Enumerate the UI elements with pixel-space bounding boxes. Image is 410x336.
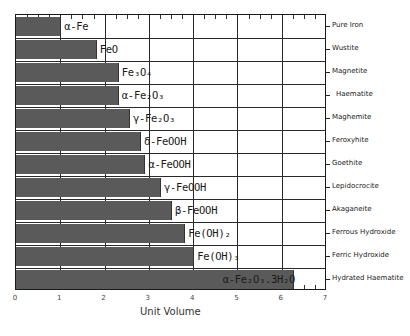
grid-line-horizontal: [16, 130, 325, 131]
bar: [16, 155, 145, 174]
mineral-label: Goethite: [332, 159, 362, 167]
right-tick: [326, 141, 330, 142]
minor-tick: [315, 285, 316, 289]
bar-label: Fe(OH)₃: [197, 250, 239, 262]
x-tick-label: 0: [13, 294, 17, 302]
x-tick-label: 1: [57, 294, 61, 302]
mineral-label: Feroxyhite: [332, 136, 368, 144]
minor-tick: [304, 285, 305, 289]
mineral-label: Akaganeite: [332, 205, 371, 213]
right-tick: [326, 49, 330, 50]
minor-tick: [249, 15, 250, 19]
minor-tick: [138, 15, 139, 19]
minor-tick: [293, 15, 294, 19]
bar-label: γ-FeOOH: [164, 181, 206, 193]
plot-area: α-FeFeOFe₃O₄α-Fe₂O₃γ-Fe₂O₃δ-FeOOHα-FeOOH…: [15, 14, 326, 290]
minor-tick: [160, 15, 161, 19]
bar: [16, 178, 161, 197]
x-axis-label: Unit Volume: [140, 306, 201, 317]
bar: [16, 86, 119, 105]
grid-line-horizontal: [16, 153, 325, 154]
minor-tick: [204, 15, 205, 19]
bar-label: γ-Fe₂O₃: [133, 112, 175, 124]
x-tick-label: 4: [190, 294, 194, 302]
minor-tick: [182, 15, 183, 19]
minor-tick: [215, 15, 216, 19]
x-tick-label: 2: [101, 294, 105, 302]
grid-line-horizontal: [16, 199, 325, 200]
grid-line-horizontal: [16, 176, 325, 177]
bar: [16, 63, 119, 82]
grid-line-horizontal: [16, 84, 325, 85]
grid-line-vertical: [282, 15, 283, 289]
bar-label: α-Fe₂O₃: [122, 89, 164, 101]
minor-tick: [226, 15, 227, 19]
minor-tick: [271, 15, 272, 19]
right-tick: [326, 187, 330, 188]
mineral-label: Lepidocrocite: [332, 182, 379, 190]
minor-tick: [116, 15, 117, 19]
right-tick: [326, 256, 330, 257]
grid-line-horizontal: [16, 245, 325, 246]
grid-line-horizontal: [16, 61, 325, 62]
bar-label: Fe₃O₄: [122, 66, 152, 78]
bar-label: Fe(OH)₂: [188, 227, 230, 239]
bar-label: FeO: [100, 43, 118, 55]
grid-line-vertical: [237, 15, 238, 289]
minor-tick: [304, 15, 305, 19]
mineral-label: Maghemite: [332, 113, 371, 121]
bar-label: α-Fe: [64, 20, 88, 32]
right-tick: [326, 164, 330, 165]
bar-label: α-FeOOH: [148, 158, 190, 170]
right-tick: [326, 72, 330, 73]
bar: [16, 247, 194, 266]
x-tick-label: 5: [234, 294, 238, 302]
bar: [16, 224, 185, 243]
minor-tick: [315, 15, 316, 19]
bar-label: β-FeOOH: [175, 204, 217, 216]
mineral-label: Hydrated Haematite: [332, 274, 403, 282]
grid-line-horizontal: [16, 38, 325, 39]
mineral-label: Haematite: [336, 90, 373, 98]
grid-line-horizontal: [16, 222, 325, 223]
x-tick-label: 6: [278, 294, 282, 302]
mineral-label: Wustite: [332, 44, 359, 52]
bar: [16, 40, 97, 59]
minor-tick: [94, 15, 95, 19]
minor-tick: [82, 15, 83, 19]
right-tick: [326, 279, 330, 280]
right-tick: [326, 118, 330, 119]
minor-tick: [127, 15, 128, 19]
mineral-label: Ferric Hydroxide: [332, 251, 389, 259]
right-tick: [326, 210, 330, 211]
right-tick: [326, 233, 330, 234]
bar: [16, 132, 141, 151]
minor-tick: [171, 15, 172, 19]
grid-line-horizontal: [16, 268, 325, 269]
grid-line-horizontal: [16, 107, 325, 108]
mineral-label: Ferrous Hydroxide: [332, 228, 396, 236]
x-tick-label: 7: [323, 294, 327, 302]
bar: [16, 109, 130, 128]
mineral-label: Pure Iron: [332, 21, 363, 29]
bar: [16, 17, 61, 36]
bar-label: α-Fe₂O₃.3H₂O: [223, 273, 295, 285]
bar: [16, 201, 172, 220]
right-tick: [326, 26, 330, 27]
minor-tick: [71, 15, 72, 19]
x-tick-label: 3: [146, 294, 150, 302]
mineral-label: Magnetite: [332, 67, 367, 75]
bar-label: δ-FeOOH: [144, 135, 186, 147]
minor-tick: [260, 15, 261, 19]
right-tick: [326, 95, 330, 96]
